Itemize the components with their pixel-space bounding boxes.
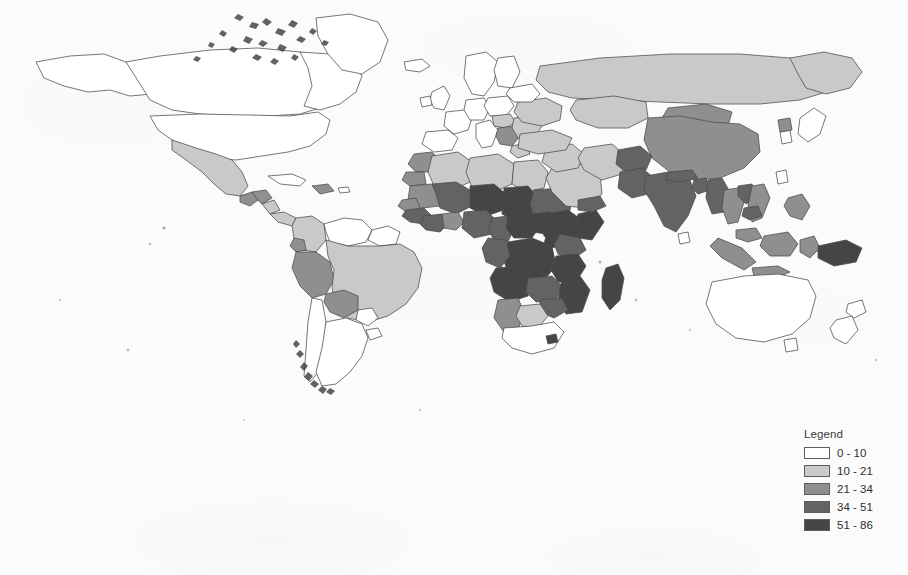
country-north-korea — [778, 118, 792, 132]
country-papua-new-guinea — [818, 240, 862, 266]
legend-item[interactable]: 34 - 51 — [802, 498, 906, 515]
country-angola — [490, 266, 532, 302]
country-nepal-bhutan — [666, 170, 698, 182]
map-legend: Legend 0 - 10 10 - 21 21 - 34 34 - 51 51… — [802, 428, 906, 534]
country-sri-lanka — [678, 232, 690, 244]
country-ireland — [420, 96, 432, 107]
country-south-korea — [780, 130, 792, 144]
country-finland — [494, 56, 520, 88]
country-taiwan — [776, 170, 788, 184]
country-guyanas — [368, 226, 400, 246]
country-ghana-togo — [442, 212, 464, 230]
country-poland — [484, 96, 514, 116]
country-turkey — [518, 130, 572, 154]
country-costa-rica-panama — [270, 212, 296, 226]
country-indonesia-sulawesi — [800, 236, 820, 258]
country-uruguay — [366, 328, 382, 340]
country-united-kingdom — [430, 86, 450, 110]
country-mali — [432, 182, 472, 214]
country-indonesia-sumatra — [710, 238, 756, 270]
country-puerto-rico — [338, 187, 350, 193]
country-cuba — [268, 174, 306, 186]
legend-swatch-4 — [804, 519, 830, 531]
legend-swatch-2 — [804, 483, 830, 495]
country-somalia — [576, 210, 604, 240]
legend-label-2: 21 - 34 — [837, 483, 873, 495]
figure-page: .c0{fill:#ffffff;} .c1{fill:#c9c9c9;} .c… — [0, 0, 908, 575]
country-norway-sweden — [464, 52, 498, 96]
legend-item[interactable]: 21 - 34 — [802, 480, 906, 497]
legend-swatch-1 — [804, 465, 830, 477]
country-new-zealand-north — [846, 300, 866, 318]
country-ecuador — [290, 238, 306, 252]
country-tasmania — [784, 338, 798, 352]
country-western-sahara — [402, 172, 426, 186]
country-hispaniola — [312, 184, 334, 194]
legend-label-4: 51 - 86 — [837, 519, 873, 531]
legend-label-1: 10 - 21 — [837, 465, 873, 477]
legend-item[interactable]: 10 - 21 — [802, 462, 906, 479]
country-australia — [706, 274, 816, 342]
legend-swatch-0 — [804, 447, 830, 459]
country-malaysia — [736, 228, 762, 242]
country-russia — [536, 54, 834, 104]
country-peru — [292, 252, 334, 298]
country-indonesia-borneo — [760, 232, 798, 256]
country-spain-portugal — [422, 130, 458, 152]
legend-title: Legend — [804, 428, 906, 441]
region-south-america — [290, 216, 422, 386]
region-africa — [398, 130, 626, 354]
country-kazakhstan — [570, 96, 648, 128]
country-new-zealand-south — [830, 316, 858, 344]
legend-item[interactable]: 51 - 86 — [802, 516, 906, 533]
country-japan — [798, 108, 826, 142]
legend-label-3: 34 - 51 — [837, 501, 873, 513]
country-philippines — [784, 194, 810, 220]
country-iceland — [404, 59, 430, 72]
legend-label-0: 0 - 10 — [837, 447, 866, 459]
country-madagascar — [602, 264, 624, 310]
legend-item[interactable]: 0 - 10 — [802, 444, 906, 461]
world-choropleth-map: .c0{fill:#ffffff;} .c1{fill:#c9c9c9;} .c… — [0, 0, 908, 575]
country-india — [644, 172, 696, 232]
legend-swatch-3 — [804, 501, 830, 513]
country-china — [644, 116, 760, 180]
country-lesotho — [546, 334, 558, 344]
